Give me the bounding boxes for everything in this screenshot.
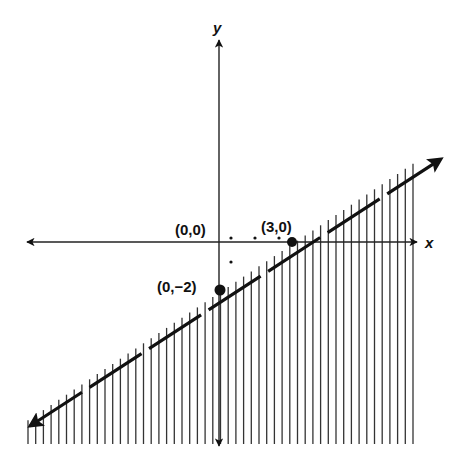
point-y-intercept bbox=[215, 285, 226, 296]
y-intercept-label: (0,−2) bbox=[157, 278, 197, 295]
guide-dots bbox=[229, 236, 280, 263]
guide-dot bbox=[229, 260, 232, 263]
x-intercept-label: (3,0) bbox=[261, 218, 292, 235]
guide-dot bbox=[277, 236, 280, 239]
point-x-intercept bbox=[287, 237, 297, 247]
origin-label: (0,0) bbox=[175, 221, 206, 238]
guide-dot bbox=[253, 236, 256, 239]
y-axis-label: y bbox=[212, 19, 222, 36]
x-axis-label: x bbox=[424, 234, 434, 251]
inequality-graph: y x (0,0) (3,0) (0,−2) bbox=[0, 0, 455, 463]
guide-dot bbox=[229, 236, 232, 239]
